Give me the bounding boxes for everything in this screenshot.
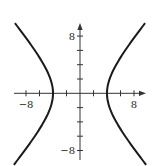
- x-tick-label: −8: [19, 99, 34, 110]
- y-tick-label: 8: [69, 31, 75, 42]
- y-tick-label: −8: [60, 145, 75, 156]
- hyperbola-plot: −888−8: [0, 0, 158, 166]
- x-axis-arrow: [139, 91, 146, 96]
- y-axis-arrow: [77, 23, 82, 30]
- left-branch: [14, 23, 53, 165]
- x-tick-label: 8: [131, 99, 137, 110]
